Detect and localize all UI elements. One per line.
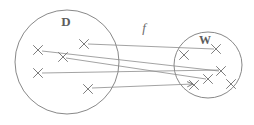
set-outline-group bbox=[15, 10, 242, 114]
function-label: f bbox=[142, 20, 148, 35]
element-mark-w5 bbox=[227, 80, 236, 89]
element-mark-d4 bbox=[34, 69, 43, 78]
function-mapping-diagram: D W f bbox=[0, 0, 254, 125]
point-mark-group bbox=[34, 40, 236, 94]
element-mark-w1 bbox=[180, 51, 189, 60]
mapping-line-group bbox=[42, 44, 219, 88]
domain-set-label: D bbox=[61, 14, 70, 29]
element-mark-d5 bbox=[84, 85, 93, 94]
mapping-line-m5 bbox=[92, 84, 193, 88]
element-mark-d2 bbox=[34, 46, 43, 55]
mapping-line-m3 bbox=[66, 58, 206, 79]
element-mark-d3 bbox=[59, 53, 68, 62]
element-mark-d1 bbox=[80, 40, 89, 49]
diagram-canvas: D W f bbox=[0, 0, 254, 125]
mapping-line-m1 bbox=[88, 44, 214, 49]
mapping-line-m4 bbox=[42, 70, 219, 73]
codomain-set-label: W bbox=[199, 33, 211, 47]
